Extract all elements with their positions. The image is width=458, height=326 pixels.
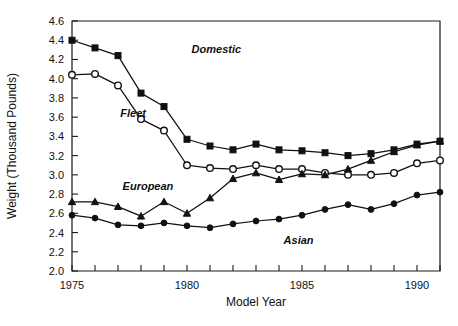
data-point-domestic <box>322 150 328 156</box>
data-point-european <box>252 169 259 175</box>
data-point-domestic <box>138 90 144 96</box>
line-chart: 2.02.22.42.62.83.03.23.43.63.84.04.24.44… <box>0 0 458 326</box>
y-tick-label: 4.2 <box>49 53 64 65</box>
series-label-european: European <box>123 180 174 192</box>
data-point-fleet <box>391 170 398 177</box>
data-point-domestic <box>161 104 167 110</box>
y-tick-label: 3.0 <box>49 169 64 181</box>
data-point-asian <box>92 215 98 221</box>
y-tick-label: 3.6 <box>49 111 64 123</box>
data-point-asian <box>115 222 121 228</box>
data-point-asian <box>253 218 259 224</box>
series-line-fleet <box>72 74 440 175</box>
series-label-asian: Asian <box>283 234 314 246</box>
x-axis-title: Model Year <box>226 295 286 309</box>
data-point-domestic <box>184 136 190 142</box>
series-annotations: DomesticFleetEuropeanAsian <box>120 43 314 246</box>
data-point-european <box>183 210 190 216</box>
data-point-asian <box>437 189 443 195</box>
series-line-european <box>72 141 440 216</box>
data-point-fleet <box>345 172 352 179</box>
data-point-asian <box>161 220 167 226</box>
chart-container: 2.02.22.42.62.83.03.23.43.63.84.04.24.44… <box>0 0 458 326</box>
data-point-fleet <box>92 71 99 78</box>
data-point-domestic <box>368 151 374 157</box>
data-point-fleet <box>184 162 191 169</box>
data-point-european <box>160 198 167 204</box>
data-point-asian <box>276 216 282 222</box>
data-point-asian <box>138 223 144 229</box>
data-point-domestic <box>345 153 351 159</box>
x-tick-label: 1990 <box>405 279 429 291</box>
y-tick-label: 2.6 <box>49 207 64 219</box>
y-tick-label: 4.4 <box>49 34 64 46</box>
y-tick-label: 2.8 <box>49 188 64 200</box>
x-tick-label: 1985 <box>290 279 314 291</box>
y-axis-title: Weight (Thousand Pounds) <box>5 73 19 219</box>
data-point-asian <box>414 192 420 198</box>
data-point-fleet <box>437 157 444 164</box>
data-point-domestic <box>207 143 213 149</box>
data-point-fleet <box>368 172 375 179</box>
y-axis-ticks: 2.02.22.42.62.83.03.23.43.63.84.04.24.44… <box>49 15 78 277</box>
y-tick-label: 3.4 <box>49 130 64 142</box>
data-point-fleet <box>230 166 237 173</box>
data-point-asian <box>368 207 374 213</box>
data-point-asian <box>230 221 236 227</box>
data-point-asian <box>184 223 190 229</box>
y-tick-label: 2.2 <box>49 246 64 258</box>
data-point-fleet <box>207 165 214 172</box>
y-tick-label: 4.6 <box>49 15 64 27</box>
data-point-fleet <box>253 162 260 169</box>
data-point-european <box>137 213 144 219</box>
data-point-asian <box>345 202 351 208</box>
data-point-asian <box>391 201 397 207</box>
data-point-fleet <box>414 160 421 167</box>
data-point-domestic <box>276 147 282 153</box>
series-label-domestic: Domestic <box>192 43 242 55</box>
data-point-fleet <box>161 127 168 134</box>
x-tick-label: 1980 <box>175 279 199 291</box>
data-point-fleet <box>276 166 283 173</box>
data-point-domestic <box>115 53 121 59</box>
y-tick-label: 2.4 <box>49 227 64 239</box>
data-point-domestic <box>230 147 236 153</box>
series-label-fleet: Fleet <box>120 107 147 119</box>
data-point-domestic <box>92 45 98 51</box>
data-point-fleet <box>115 82 122 89</box>
data-point-asian <box>69 212 75 218</box>
series-lines <box>72 40 440 228</box>
y-tick-label: 3.8 <box>49 92 64 104</box>
x-axis-ticks: 1975198019851990 <box>60 265 440 291</box>
y-tick-label: 3.2 <box>49 150 64 162</box>
data-point-domestic <box>253 141 259 147</box>
data-point-domestic <box>299 148 305 154</box>
x-tick-label: 1975 <box>60 279 84 291</box>
data-point-asian <box>207 225 213 231</box>
data-point-asian <box>322 207 328 213</box>
y-tick-label: 4.0 <box>49 73 64 85</box>
data-point-domestic <box>69 37 75 43</box>
y-tick-label: 2.0 <box>49 265 64 277</box>
data-point-asian <box>299 212 305 218</box>
data-point-fleet <box>69 72 76 79</box>
